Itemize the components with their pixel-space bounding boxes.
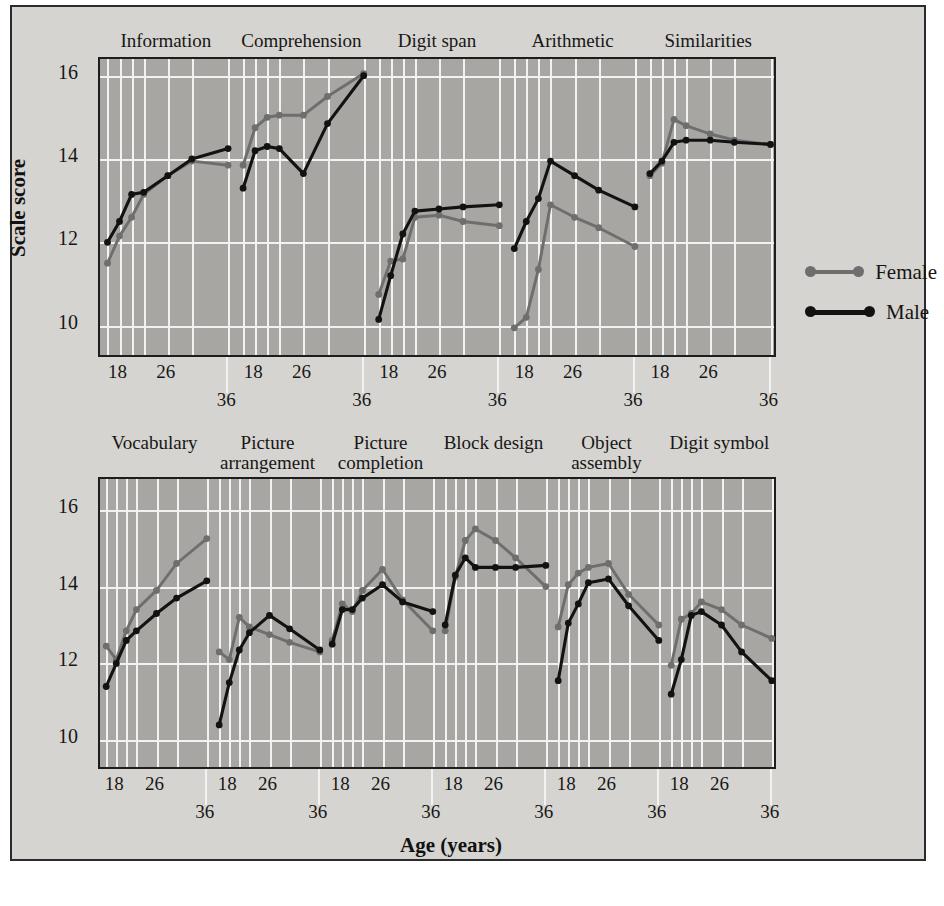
data-point-male [523, 218, 530, 225]
data-point-male [173, 595, 180, 602]
x-tick-label: 18 [369, 361, 409, 383]
data-point-female [300, 112, 307, 119]
data-point-male [133, 627, 140, 634]
data-point-female [671, 116, 678, 123]
legend-dot-left-female [805, 266, 816, 277]
data-point-male [116, 218, 123, 225]
data-point-male [324, 120, 331, 127]
data-point-female [605, 560, 612, 567]
data-point-male [349, 606, 356, 613]
data-point-male [429, 608, 436, 615]
data-point-male [547, 158, 554, 165]
x-tick-label: 18 [320, 773, 360, 795]
data-point-male [668, 691, 675, 698]
data-point-male [671, 139, 678, 146]
data-point-male [605, 576, 612, 583]
data-point-female [542, 583, 549, 590]
data-point-male [103, 683, 110, 690]
data-point-female [718, 606, 725, 613]
data-point-male [442, 622, 449, 629]
x-tick-label: 18 [640, 361, 680, 383]
data-point-female [535, 266, 542, 273]
data-point-female [523, 314, 530, 321]
data-point-male [542, 562, 549, 569]
x-tick-label: 26 [700, 773, 740, 795]
data-point-female [768, 635, 775, 642]
data-point-female [264, 114, 271, 121]
data-point-female [655, 622, 662, 629]
data-point-male [575, 601, 582, 608]
data-point-male [632, 204, 639, 211]
data-point-male [683, 137, 690, 144]
x-tick-label: 18 [546, 773, 586, 795]
data-point-male [339, 606, 346, 613]
data-point-female [555, 624, 562, 631]
data-point-male [452, 572, 459, 579]
data-point-male [104, 239, 111, 246]
y-tick-label: 12 [44, 648, 78, 671]
data-point-male [767, 141, 774, 148]
series-line-female [445, 529, 546, 631]
data-point-male [678, 656, 685, 663]
x-tick-label: 26 [474, 773, 514, 795]
data-point-female [286, 639, 293, 646]
data-point-female [116, 233, 123, 240]
data-point-female [632, 243, 639, 250]
x-tick-label: 26 [587, 773, 627, 795]
y-tick-label: 14 [44, 572, 78, 595]
x-tick-label: 26 [248, 773, 288, 795]
data-point-female [571, 214, 578, 221]
y-axis-title: Scale score [6, 159, 31, 257]
tick-extension [226, 357, 228, 393]
series-line-female [650, 119, 771, 175]
data-point-female [472, 526, 479, 533]
data-point-female [216, 649, 223, 656]
data-point-female [133, 606, 140, 613]
x-tick-label: 18 [98, 361, 138, 383]
data-point-male [585, 579, 592, 586]
tick-extension [633, 357, 635, 393]
legend-dot-left-male [805, 306, 816, 317]
plot-area-top [98, 57, 776, 357]
data-point-male [555, 677, 562, 684]
series-line-male [379, 205, 500, 320]
series-line-female [106, 539, 207, 660]
data-point-male [329, 641, 336, 648]
y-tick-label: 10 [44, 311, 78, 334]
data-point-female [565, 581, 572, 588]
data-point-female [252, 124, 259, 131]
data-point-male [399, 231, 406, 238]
legend-item-female[interactable]: Female [807, 252, 937, 292]
data-point-female [173, 560, 180, 567]
x-tick-label: 18 [94, 773, 134, 795]
data-point-male [718, 622, 725, 629]
x-tick-label: 26 [417, 361, 457, 383]
figure-container: Scale score Age (years) 16141210Informat… [0, 0, 944, 906]
data-point-female [442, 627, 449, 634]
x-tick-label: 26 [135, 773, 175, 795]
data-point-male [462, 554, 469, 561]
data-point-male [153, 610, 160, 617]
data-point-female [678, 616, 685, 623]
data-point-male [379, 581, 386, 588]
data-point-female [153, 587, 160, 594]
data-point-male [492, 564, 499, 571]
data-point-female [547, 201, 554, 208]
data-point-male [655, 637, 662, 644]
data-point-female [625, 591, 632, 598]
data-point-male [436, 206, 443, 213]
data-point-male [359, 595, 366, 602]
data-point-male [203, 577, 210, 584]
legend-item-male[interactable]: Male [807, 292, 937, 332]
x-tick-label: 26 [146, 361, 186, 383]
data-point-female [668, 662, 675, 669]
data-point-male [286, 625, 293, 632]
data-point-male [316, 647, 323, 654]
data-point-female [698, 599, 705, 606]
data-point-male [225, 145, 232, 152]
y-tick-label: 12 [44, 227, 78, 250]
x-tick-label: 18 [659, 773, 699, 795]
data-point-male [659, 158, 666, 165]
data-point-male [387, 272, 394, 279]
data-point-male [140, 189, 147, 196]
